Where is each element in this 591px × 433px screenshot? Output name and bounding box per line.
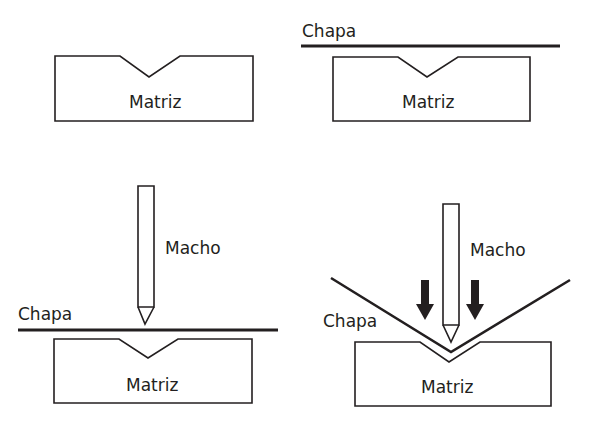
die-label-1: Matriz <box>129 92 181 112</box>
punch-label-4: Macho <box>470 240 526 260</box>
punch-3 <box>138 186 154 307</box>
arrow-down-icon <box>416 280 434 320</box>
sheet-label-3: Chapa <box>18 304 72 324</box>
die-label-3: Matriz <box>126 375 178 395</box>
sheet-label-4: Chapa <box>323 311 377 331</box>
force-arrows <box>416 280 484 320</box>
arrow-down-icon <box>466 280 484 320</box>
die-label-2: Matriz <box>402 92 454 112</box>
sheet-label-2: Chapa <box>302 21 356 41</box>
punch-tip-3 <box>138 307 154 324</box>
punch-tip-4 <box>443 325 459 342</box>
panel-4 <box>331 204 570 406</box>
punch-4 <box>443 204 459 325</box>
panel-3 <box>18 186 278 403</box>
punch-label-3: Macho <box>165 238 221 258</box>
die-label-4: Matriz <box>421 377 473 397</box>
press-brake-bending-diagram: Matriz Chapa Matriz Macho Chapa Matriz M… <box>0 0 591 433</box>
